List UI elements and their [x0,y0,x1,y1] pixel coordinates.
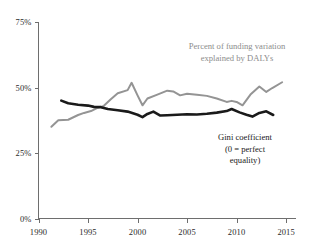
x-tick-label: 1995 [79,227,96,237]
annotation-line: Percent of funding variation [189,41,286,53]
annotation-line: equality) [218,155,272,167]
y-tick-label: 50% [2,83,32,93]
y-axis-ticks [35,23,39,220]
annotation-line: explained by DALYs [189,53,286,65]
annotation-line: (0 = perfect [218,144,272,156]
chart-container: 75%50%25%0% 199019952000200520102015 Per… [0,0,315,251]
y-tick-label: 25% [2,148,32,158]
series-label-funding-variation: Percent of funding variationexplained by… [189,41,286,64]
annotation-line: Gini coefficient [218,132,272,144]
data-series-group [51,82,282,127]
x-tick-label: 2005 [178,227,195,237]
series-label-gini-coefficient: Gini coefficient(0 = perfectequality) [218,132,272,167]
x-tick-label: 2015 [277,227,294,237]
x-tick-label: 2010 [228,227,245,237]
chart-plot-area [0,0,315,251]
y-tick-label: 75% [2,17,32,27]
x-axis-ticks [39,219,287,223]
y-tick-label: 0% [2,214,32,224]
series-line-gini-coefficient [61,101,273,118]
x-tick-label: 2000 [129,227,146,237]
x-tick-label: 1990 [30,227,47,237]
